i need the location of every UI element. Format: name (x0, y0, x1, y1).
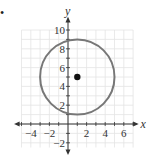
y-tick-label: −2 (53, 137, 65, 149)
x-tick-label: −4 (25, 127, 37, 139)
x-tick-label: 6 (121, 127, 127, 139)
x-tick-label: 2 (84, 127, 90, 139)
x-axis-label: x (140, 117, 147, 131)
x-axis-arrow-icon (133, 122, 139, 127)
y-axis-arrow-down-icon (66, 149, 71, 155)
bullet-mark: • (0, 6, 4, 20)
y-tick-label: 10 (54, 24, 66, 36)
y-tick-label: 2 (60, 99, 66, 111)
y-tick-label: 4 (60, 80, 66, 92)
y-tick-label: 6 (60, 62, 66, 74)
center-point (74, 74, 80, 80)
y-tick-label: 8 (60, 43, 66, 55)
coordinate-plane: •−4−2246108642−2xy (0, 0, 158, 155)
x-tick-label: 4 (102, 127, 108, 139)
y-axis-label: y (64, 4, 71, 18)
x-axis-arrow-left-icon (14, 122, 20, 127)
